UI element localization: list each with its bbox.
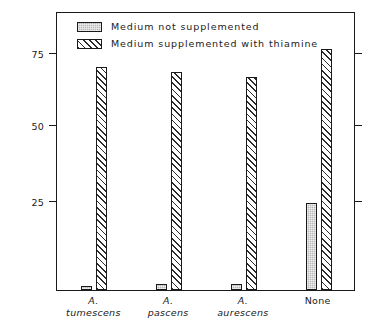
- bar-not-supplemented-2: [231, 284, 242, 290]
- x-category-line1-2: A.: [217, 295, 268, 307]
- y-tick-right-50: [354, 125, 362, 126]
- legend: Medium not supplemented Medium supplemen…: [77, 19, 318, 53]
- bar-supplemented-0: [96, 67, 107, 290]
- y-tick-right-75: [354, 53, 362, 54]
- y-tick-75: 75: [49, 53, 57, 54]
- bar-not-supplemented-0: [81, 286, 92, 290]
- bar-not-supplemented-1: [156, 284, 167, 290]
- legend-label-0: Medium not supplemented: [111, 21, 260, 32]
- x-category-line2-2: aurescens: [217, 307, 268, 319]
- x-category-line1-3: None: [305, 295, 331, 307]
- x-category-label-2: A.aurescens: [217, 295, 268, 319]
- plot-area: 25 50 75 Medium not supplemented Medium …: [56, 12, 355, 291]
- y-tick-50: 50: [49, 125, 57, 126]
- y-tick-label-50: 50: [32, 121, 45, 132]
- y-tick-label-25: 25: [32, 197, 45, 208]
- x-category-label-3: None: [305, 295, 331, 307]
- x-category-line1-1: A.: [148, 295, 189, 307]
- bar-supplemented-1: [171, 72, 182, 290]
- bar-chart: Weight of fungus mat, mg 25 50 75 Medium…: [0, 0, 370, 336]
- solid-gray-swatch-icon: [77, 22, 102, 32]
- legend-label-1: Medium supplemented with thiamine: [111, 38, 318, 49]
- bar-supplemented-2: [246, 77, 257, 290]
- y-tick-right-25: [354, 201, 362, 202]
- legend-item-not-supplemented: Medium not supplemented: [77, 19, 318, 34]
- x-category-label-0: A.tumescens: [66, 295, 121, 319]
- x-category-label-1: A.pascens: [148, 295, 189, 319]
- bars-layer: [57, 13, 354, 290]
- x-category-line2-0: tumescens: [66, 307, 121, 319]
- y-tick-label-75: 75: [32, 49, 45, 60]
- legend-item-supplemented: Medium supplemented with thiamine: [77, 36, 318, 51]
- hatched-swatch-icon: [77, 39, 102, 49]
- bar-not-supplemented-3: [306, 203, 317, 290]
- x-category-line2-1: pascens: [148, 307, 189, 319]
- y-tick-25: 25: [49, 201, 57, 202]
- bar-supplemented-3: [321, 49, 332, 290]
- x-category-line1-0: A.: [66, 295, 121, 307]
